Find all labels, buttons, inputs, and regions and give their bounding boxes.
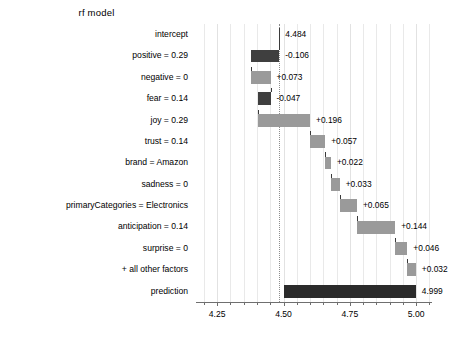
breakdown-row[interactable]: trust = 0.14+0.057 [196, 131, 432, 152]
axis-tick-minor [310, 302, 311, 305]
row-category-label: + all other factors [122, 259, 188, 280]
axis-tick-minor [230, 302, 231, 305]
axis-tick-minor [270, 302, 271, 305]
breakdown-row[interactable]: joy = 0.29+0.196 [196, 110, 432, 131]
contribution-bar[interactable] [331, 178, 340, 191]
breakdown-row[interactable]: sadness = 0+0.033 [196, 174, 432, 195]
axis-tick-minor [204, 302, 205, 305]
contribution-bar[interactable] [284, 285, 416, 298]
step-connector [251, 67, 252, 71]
axis-tick-minor [257, 302, 258, 305]
row-category-label: joy = 0.29 [150, 110, 188, 131]
contribution-bar[interactable] [407, 263, 415, 276]
row-category-label: trust = 0.14 [145, 131, 188, 152]
breakdown-row[interactable]: prediction4.999 [196, 281, 432, 302]
axis-tick-label: 5.00 [408, 309, 425, 319]
breakdown-row[interactable]: intercept4.484 [196, 24, 432, 45]
step-connector [357, 216, 358, 220]
axis-tick-minor [390, 302, 391, 305]
row-category-label: anticipation = 0.14 [118, 216, 188, 237]
row-category-label: positive = 0.29 [132, 45, 188, 66]
row-category-label: surprise = 0 [143, 238, 188, 259]
axis-tick-minor [323, 302, 324, 305]
intercept-marker [279, 28, 280, 45]
row-value-label: 4.999 [422, 281, 443, 302]
step-connector [310, 131, 311, 135]
row-category-label: fear = 0.14 [147, 88, 188, 109]
contribution-bar[interactable] [310, 135, 325, 148]
row-value-label: +0.032 [422, 259, 448, 280]
row-value-label: +0.022 [337, 152, 363, 173]
axis-tick-minor [244, 302, 245, 305]
axis-tick-major [217, 302, 218, 306]
row-value-label: +0.057 [331, 131, 357, 152]
row-value-label: +0.033 [346, 174, 372, 195]
axis-tick-label: 4.75 [341, 309, 358, 319]
contribution-bar[interactable] [357, 221, 395, 234]
row-value-label: +0.065 [363, 195, 389, 216]
row-category-label: prediction [151, 281, 188, 302]
contribution-bar[interactable] [340, 199, 357, 212]
axis-tick-minor [429, 302, 430, 305]
breakdown-row[interactable]: brand = Amazon+0.022 [196, 152, 432, 173]
row-value-label: -0.047 [277, 88, 301, 109]
axis-tick-minor [376, 302, 377, 305]
row-value-label: +0.073 [277, 67, 303, 88]
axis-tick-minor [363, 302, 364, 305]
axis-tick-label: 4.50 [275, 309, 292, 319]
contribution-bar[interactable] [258, 114, 310, 127]
step-connector [258, 110, 259, 114]
contribution-bar[interactable] [395, 242, 407, 255]
axis-tick-minor [403, 302, 404, 305]
breakdown-row[interactable]: negative = 0+0.073 [196, 67, 432, 88]
row-category-label: negative = 0 [141, 67, 188, 88]
breakdown-plot: rf model intercept4.484positive = 0.29-0… [0, 0, 461, 338]
axis-tick-minor [297, 302, 298, 305]
axis-tick-major [350, 302, 351, 306]
step-connector [271, 88, 272, 92]
plot-area: intercept4.484positive = 0.29-0.106negat… [196, 24, 432, 302]
step-connector [331, 174, 332, 178]
contribution-bar[interactable] [251, 50, 279, 63]
step-connector [407, 259, 408, 263]
contribution-bar[interactable] [258, 92, 270, 105]
step-connector [340, 195, 341, 199]
contribution-bar[interactable] [251, 71, 270, 84]
row-category-label: intercept [155, 24, 188, 45]
step-connector [395, 238, 396, 242]
step-connector [325, 152, 326, 156]
row-category-label: primaryCategories = Electronics [66, 195, 188, 216]
row-value-label: -0.106 [285, 45, 309, 66]
step-connector [279, 45, 280, 49]
row-value-label: +0.144 [401, 216, 427, 237]
contribution-bar[interactable] [325, 157, 331, 170]
breakdown-row[interactable]: fear = 0.14-0.047 [196, 88, 432, 109]
row-value-label: 4.484 [285, 24, 306, 45]
breakdown-row[interactable]: anticipation = 0.14+0.144 [196, 216, 432, 237]
axis-tick-minor [337, 302, 338, 305]
axis-tick-major [284, 302, 285, 306]
breakdown-row[interactable]: + all other factors+0.032 [196, 259, 432, 280]
row-value-label: +0.046 [413, 238, 439, 259]
row-value-label: +0.196 [316, 110, 342, 131]
axis-tick-major [416, 302, 417, 306]
axis-tick-label: 4.25 [209, 309, 226, 319]
row-category-label: brand = Amazon [125, 152, 188, 173]
chart-title: rf model [0, 7, 193, 18]
x-axis: 4.254.504.755.00 [196, 302, 432, 332]
row-category-label: sadness = 0 [141, 174, 188, 195]
breakdown-row[interactable]: positive = 0.29-0.106 [196, 45, 432, 66]
breakdown-row[interactable]: surprise = 0+0.046 [196, 238, 432, 259]
breakdown-row[interactable]: primaryCategories = Electronics+0.065 [196, 195, 432, 216]
